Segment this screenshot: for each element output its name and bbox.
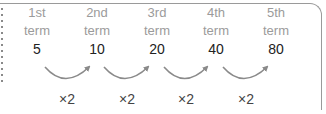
multiplier-3: ×2 — [166, 91, 206, 107]
arrow-2-to-3 — [104, 67, 148, 79]
multiplier-2: ×2 — [107, 91, 147, 107]
arrow-4-to-5 — [223, 67, 267, 79]
arrow-3-to-4 — [164, 67, 207, 79]
multiplier-1: ×2 — [47, 91, 87, 107]
multiplier-4: ×2 — [226, 91, 266, 107]
arrow-1-to-2 — [45, 67, 89, 79]
